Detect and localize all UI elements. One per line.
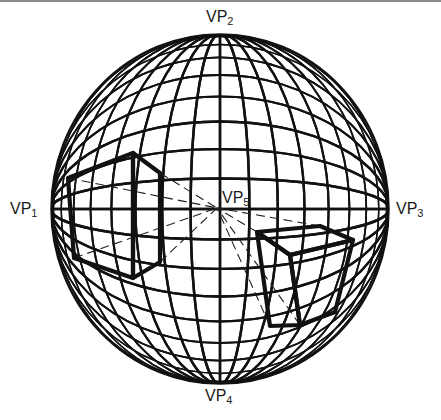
label-vp3: VP3: [396, 200, 423, 219]
label-vp5: VP5: [222, 189, 249, 208]
label-subscript: 3: [417, 207, 423, 219]
perspective-sphere-diagram: [0, 0, 441, 420]
label-subscript: 2: [227, 15, 233, 27]
label-text: VP: [205, 387, 226, 404]
label-subscript: 4: [226, 394, 232, 406]
label-subscript: 5: [243, 196, 249, 208]
label-text: VP: [206, 8, 227, 25]
label-vp4: VP4: [205, 387, 232, 406]
label-text: VP: [222, 189, 243, 206]
label-subscript: 1: [31, 207, 37, 219]
label-text: VP: [396, 200, 417, 217]
label-vp2: VP2: [206, 8, 233, 27]
label-vp1: VP1: [10, 200, 37, 219]
label-text: VP: [10, 200, 31, 217]
